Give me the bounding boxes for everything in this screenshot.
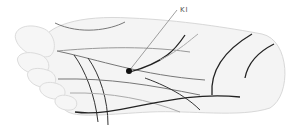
toe-big (15, 26, 54, 57)
ki-point-marker (126, 68, 132, 74)
toe-5 (55, 95, 77, 110)
ki-point-label: KI (180, 6, 189, 14)
foot-diagram (0, 0, 299, 128)
